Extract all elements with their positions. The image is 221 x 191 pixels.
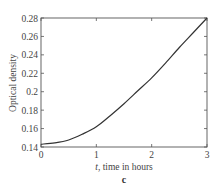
x-axis-ticks: 0123 (39, 18, 210, 160)
y-tick-label: 0.18 (21, 106, 38, 116)
optical-density-chart: Optical density 0.140.160.180.20.220.240… (0, 0, 221, 191)
x-tick-label: 2 (149, 150, 154, 160)
x-axis-title: t, time in hours (95, 162, 153, 172)
y-tick-label: 0.22 (21, 69, 38, 79)
y-axis-ticks: 0.140.160.180.20.220.240.260.28 (21, 14, 207, 153)
y-tick-label: 0.28 (21, 14, 38, 24)
x-tick-label: 3 (205, 150, 210, 160)
y-tick-label: 0.24 (21, 50, 38, 60)
plot-frame (41, 18, 207, 147)
y-tick-label: 0.16 (21, 124, 38, 134)
data-line (41, 18, 207, 144)
y-tick-label: 0.26 (21, 32, 38, 42)
y-axis-title: Optical density (8, 54, 18, 112)
x-tick-label: 0 (39, 150, 44, 160)
figure-caption: c (122, 174, 127, 185)
y-tick-label: 0.14 (21, 143, 38, 153)
y-tick-label: 0.2 (26, 87, 38, 97)
svg-text:Optical density: Optical density (8, 54, 18, 112)
x-tick-label: 1 (94, 150, 99, 160)
